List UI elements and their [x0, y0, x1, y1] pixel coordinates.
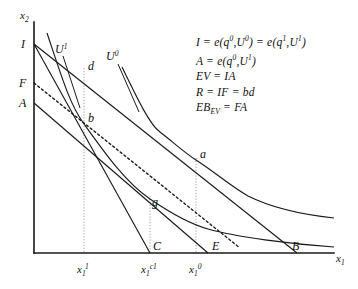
equation-income: I = e(q0,U0) = e(q1,U1): [196, 31, 356, 50]
x-axis-label: x1: [335, 252, 345, 267]
equation-excess-burden: EBEV = FA: [196, 100, 356, 120]
x-axis-tick-labels: x11 x1c1 x10: [76, 262, 202, 278]
label-U1: U1: [55, 42, 67, 56]
y-axis-label: x2: [19, 9, 29, 24]
label-I: I: [20, 37, 26, 51]
curve-label-leaders: [63, 56, 139, 112]
leader-line-U0: [118, 64, 139, 112]
label-U0: U0: [106, 49, 119, 63]
figure-container: x2 x1 I F A d b a g C E B U1 U0: [0, 0, 358, 289]
label-b: b: [88, 111, 94, 125]
y-intercept-labels: I F A: [18, 37, 27, 110]
equation-annotations: I = e(q0,U0) = e(q1,U1) A = e(q0,U1) EV …: [196, 31, 356, 120]
equation-ev: EV = IA: [196, 69, 356, 84]
label-a: a: [200, 147, 206, 161]
budget-line-I-C: [34, 44, 150, 253]
label-g: g: [152, 195, 158, 209]
label-F: F: [18, 76, 27, 90]
tick-label-x1-c1: x1c1: [140, 262, 157, 278]
budget-line-A-E: [34, 103, 208, 253]
equation-r: R = IF = bd: [196, 85, 356, 100]
label-d: d: [88, 59, 95, 73]
label-E: E: [211, 239, 220, 253]
tick-label-x1-1: x11: [76, 262, 89, 278]
label-A: A: [18, 96, 27, 110]
label-C: C: [153, 239, 162, 253]
equation-a: A = e(q0,U1): [196, 50, 356, 69]
label-B: B: [292, 239, 300, 253]
tick-label-x1-0: x10: [188, 262, 202, 278]
